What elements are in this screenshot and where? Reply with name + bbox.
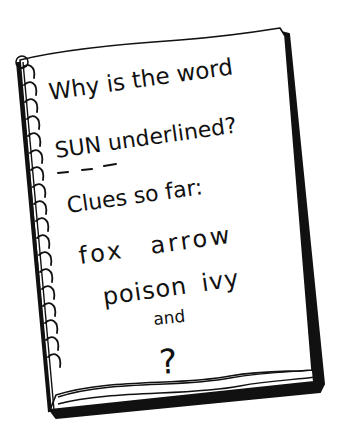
notebook-illustration: Why is the word SUN underlined? Clues so…: [0, 0, 341, 439]
line-and: and: [152, 306, 186, 329]
line-question-mark: ?: [158, 341, 179, 382]
